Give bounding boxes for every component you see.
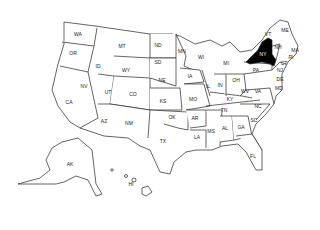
state-label-in: IN: [218, 83, 223, 88]
state-label-ga: GA: [237, 125, 244, 130]
state-label-md: MD: [275, 86, 283, 91]
state-label-nh: NH: [274, 45, 281, 50]
state-label-mt: MT: [118, 44, 125, 49]
state-label-ma: MA: [291, 48, 299, 53]
state-label-wa: WA: [74, 32, 82, 37]
state-label-ar: AR: [192, 116, 199, 121]
state-label-wv: WV: [241, 89, 249, 94]
state-label-ne: NE: [159, 78, 166, 83]
state-label-oh: OH: [232, 78, 240, 83]
state-label-ca: CA: [66, 100, 73, 105]
state-label-ny: NY: [260, 52, 267, 57]
state-label-il: IL: [206, 84, 210, 89]
state-label-ak: AK: [67, 162, 74, 167]
state-label-pa: PA: [253, 68, 259, 73]
state-label-co: CO: [129, 92, 137, 97]
state-label-wi: WI: [198, 55, 204, 60]
state-label-ok: OK: [168, 115, 175, 120]
state-label-al: AL: [222, 126, 228, 131]
state-label-vt: VT: [265, 32, 271, 37]
state-label-sc: SC: [251, 118, 258, 123]
state-label-tn: TN: [221, 108, 228, 113]
state-label-wy: WY: [122, 68, 130, 73]
state-label-la: LA: [194, 135, 200, 140]
state-label-id: ID: [96, 64, 101, 69]
state-label-de: DE: [277, 77, 284, 82]
state-label-ia: IA: [188, 74, 193, 79]
state-label-fl: FL: [250, 154, 256, 159]
state-label-nm: NM: [125, 121, 133, 126]
state-label-ks: KS: [160, 99, 167, 104]
state-label-ut: UT: [105, 90, 112, 95]
state-ak: [18, 138, 102, 196]
state-label-ri: RI: [289, 55, 294, 60]
state-label-ct: CT: [281, 61, 288, 66]
state-label-ms: MS: [207, 129, 215, 134]
state-label-me: ME: [281, 28, 289, 33]
state-label-nj: NJ: [277, 68, 283, 73]
state-label-sd: SD: [155, 60, 162, 65]
state-label-mo: MO: [189, 97, 197, 102]
state-label-va: VA: [255, 89, 261, 94]
state-label-tx: TX: [160, 139, 166, 144]
us-map: [0, 0, 320, 230]
state-label-hi: HI: [129, 182, 134, 187]
state-label-az: AZ: [101, 119, 107, 124]
state-label-nv: NV: [81, 84, 88, 89]
state-label-nd: ND: [154, 43, 161, 48]
state-label-or: OR: [69, 51, 77, 56]
state-label-mi: MI: [223, 61, 229, 66]
state-label-mn: MN: [178, 49, 186, 54]
state-label-ky: KY: [227, 97, 234, 102]
state-label-nc: NC: [254, 104, 261, 109]
